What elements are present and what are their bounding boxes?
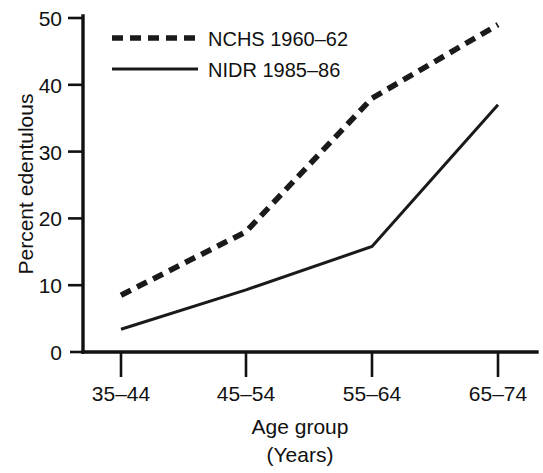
x-tick-label-65-74: 65‒74	[469, 382, 528, 405]
y-tick-label-20: 20	[39, 207, 62, 230]
y-tick-marks	[68, 18, 83, 352]
x-axis-title-line1: Age group	[252, 415, 349, 438]
y-tick-label-40: 40	[39, 74, 62, 97]
y-tick-label-0: 0	[50, 341, 62, 364]
x-tick-label-35-44: 35‒44	[92, 382, 151, 405]
x-tick-label-45-54: 45‒54	[217, 382, 276, 405]
series-line-nidr	[121, 105, 498, 329]
y-tick-labels: 50 40 30 20 10 0	[39, 7, 62, 364]
line-chart-svg: 50 40 30 20 10 0 35‒44 45‒54 55‒64 65‒74…	[0, 0, 543, 473]
chart-figure: 50 40 30 20 10 0 35‒44 45‒54 55‒64 65‒74…	[0, 0, 543, 473]
legend-label-nidr: NIDR 1985‒86	[208, 59, 340, 81]
chart-legend: NCHS 1960‒62 NIDR 1985‒86	[112, 28, 348, 81]
x-tick-label-55-64: 55‒64	[343, 382, 402, 405]
y-tick-label-30: 30	[39, 141, 62, 164]
y-tick-label-50: 50	[39, 7, 62, 30]
x-tick-marks	[121, 352, 498, 377]
x-axis-title-line2: (Years)	[267, 443, 334, 466]
legend-label-nchs: NCHS 1960‒62	[208, 28, 348, 50]
x-tick-labels: 35‒44 45‒54 55‒64 65‒74	[92, 382, 528, 405]
y-tick-label-10: 10	[39, 274, 62, 297]
y-axis-title: Percent edentulous	[14, 94, 37, 275]
